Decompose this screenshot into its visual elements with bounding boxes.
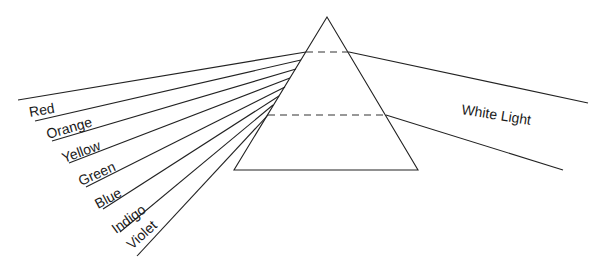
ray-6 [103,96,279,209]
label-blue: Blue [92,184,124,211]
ray-4 [69,78,290,163]
white-light-upper-edge [349,52,588,103]
label-yellow: Yellow [60,137,104,166]
prism-diagram: Red Orange Yellow Green Blue Indigo Viol… [0,0,604,274]
label-orange: Orange [44,114,94,142]
label-white-light: White Light [461,101,533,128]
label-green: Green [76,158,118,188]
ray-1 [18,52,306,100]
prism [234,17,418,170]
ray-8 [137,115,268,256]
